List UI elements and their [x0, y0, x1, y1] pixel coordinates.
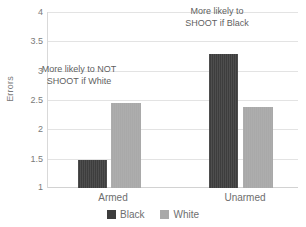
- legend-item-white[interactable]: White: [160, 209, 199, 220]
- annotation-more-likely-shoot-black: More likely to SHOOT if Black: [150, 6, 284, 29]
- x-tick-label-unarmed: Unarmed: [207, 192, 283, 203]
- annotation-black-line-1: More likely to: [150, 6, 284, 18]
- legend-swatch-white-icon: [160, 210, 169, 219]
- legend-label-white: White: [173, 209, 199, 220]
- gridline-3-5: 3.5: [48, 41, 298, 42]
- bar-unarmed-white[interactable]: [243, 107, 273, 188]
- annotation-white-line-2: SHOOT if White: [12, 76, 146, 88]
- legend-swatch-black-icon: [107, 210, 116, 219]
- bar-armed-white[interactable]: [111, 103, 141, 188]
- annotation-black-line-2: SHOOT if Black: [150, 18, 284, 30]
- y-tick-label-2: 2: [38, 124, 43, 134]
- legend-item-black[interactable]: Black: [107, 209, 144, 220]
- bar-unarmed-black[interactable]: [209, 54, 238, 188]
- legend-label-black: Black: [120, 209, 144, 220]
- y-tick-label-4: 4: [38, 7, 43, 17]
- bar-chart: Errors 4 3.5 3 2.5 2 1.5 1 More likely: [0, 0, 306, 227]
- annotation-more-likely-not-shoot-white: More likely to NOT SHOOT if White: [12, 64, 146, 87]
- y-tick-label-3-5: 3.5: [30, 36, 43, 46]
- gridline-2-5: 2.5: [48, 100, 298, 101]
- y-tick-label-2-5: 2.5: [30, 95, 43, 105]
- annotation-white-line-1: More likely to NOT: [12, 64, 146, 76]
- y-tick-label-1-5: 1.5: [30, 154, 43, 164]
- bar-armed-black[interactable]: [78, 160, 107, 188]
- plot-area: 4 3.5 3 2.5 2 1.5 1: [47, 12, 298, 188]
- legend: Black White: [0, 209, 306, 220]
- y-tick-label-1: 1: [38, 182, 43, 192]
- x-tick-label-armed: Armed: [78, 192, 148, 203]
